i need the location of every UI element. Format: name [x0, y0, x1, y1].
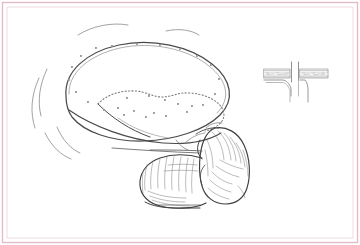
inset-wall-right: [300, 69, 328, 78]
suture-dot: [202, 104, 204, 106]
figure-root: [0, 0, 360, 245]
suture-dot: [71, 66, 73, 68]
suture-dot: [148, 95, 150, 97]
suture-dot: [214, 93, 216, 95]
suture-dot: [196, 55, 198, 57]
suture-dot: [186, 111, 188, 113]
suture-dot: [165, 115, 167, 117]
suture-dot: [95, 47, 97, 49]
suture-dot: [126, 97, 128, 99]
suture-dot: [80, 55, 82, 57]
suture-dot: [111, 45, 113, 47]
suture-dot: [153, 112, 155, 114]
suture-dot: [123, 114, 125, 116]
suture-dot: [103, 109, 105, 111]
suture-dot: [145, 116, 147, 118]
suture-dot: [68, 79, 70, 81]
suture-dot: [177, 103, 179, 105]
suture-dot: [164, 99, 166, 101]
inset-wall-left: [264, 69, 290, 78]
suture-dot: [218, 78, 220, 80]
suture-dot: [133, 110, 135, 112]
suture-dot: [136, 43, 138, 45]
suture-dot: [75, 91, 77, 93]
suture-dot: [87, 101, 89, 103]
suture-dot: [191, 105, 193, 107]
suture-dot: [210, 64, 212, 66]
suture-dot: [159, 44, 161, 46]
suture-dot: [117, 107, 119, 109]
surgical-illustration: [0, 0, 360, 245]
suture-dot: [179, 48, 181, 50]
